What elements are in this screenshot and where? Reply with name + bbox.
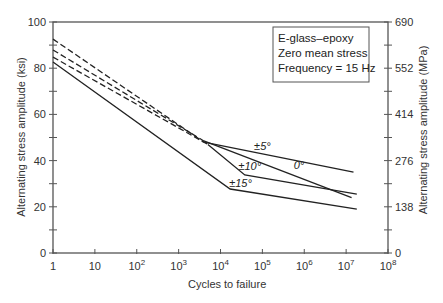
x-axis-title: Cycles to failure <box>188 278 266 290</box>
series-line <box>204 142 354 172</box>
y-tick-label: 60 <box>34 108 46 120</box>
legend-line: E-glass–epoxy <box>278 32 354 44</box>
series-label: ±10° <box>238 160 261 172</box>
series-label: ±5° <box>254 140 271 152</box>
sn-fatigue-chart: 020406080100 0138276414552690 1101021031… <box>0 0 443 303</box>
y-tick-label: 80 <box>34 62 46 74</box>
x-tick-label: 105 <box>254 258 271 272</box>
y-tick-label: 20 <box>34 201 46 213</box>
y-right-tick-label: 552 <box>395 62 413 74</box>
y-tick-label: 100 <box>28 16 46 28</box>
legend-line: Frequency = 15 Hz <box>278 62 376 74</box>
series-label: ±15° <box>229 177 252 189</box>
y-tick-label: 40 <box>34 155 46 167</box>
x-tick-label: 106 <box>296 258 313 272</box>
series-line-dashed <box>53 57 208 144</box>
x-tick-label: 108 <box>380 258 397 272</box>
y-right-tick-label: 414 <box>395 108 413 120</box>
series-line <box>53 62 357 209</box>
y-right-tick-label: 138 <box>395 201 413 213</box>
series-line-dashed <box>53 50 204 141</box>
y-axis-title-right: Alternating stress amplitude (MPa) <box>417 46 429 215</box>
y-right-tick-label: 276 <box>395 155 413 167</box>
x-tick-label: 104 <box>212 258 229 272</box>
x-tick-label: 103 <box>170 258 187 272</box>
x-tick-label: 10 <box>89 260 101 272</box>
legend-box: E-glass–epoxyZero mean stressFrequency =… <box>273 27 376 82</box>
y-right-tick-label: 690 <box>395 16 413 28</box>
x-tick-label: 107 <box>338 258 355 272</box>
series-label: 0° <box>294 159 305 171</box>
legend-line: Zero mean stress <box>278 47 368 59</box>
y-axis-title-left: Alternating stress amplitude (ksi) <box>15 57 27 217</box>
x-tick-label: 102 <box>128 258 145 272</box>
x-tick-label: 1 <box>50 260 56 272</box>
y-tick-label: 0 <box>40 247 46 259</box>
